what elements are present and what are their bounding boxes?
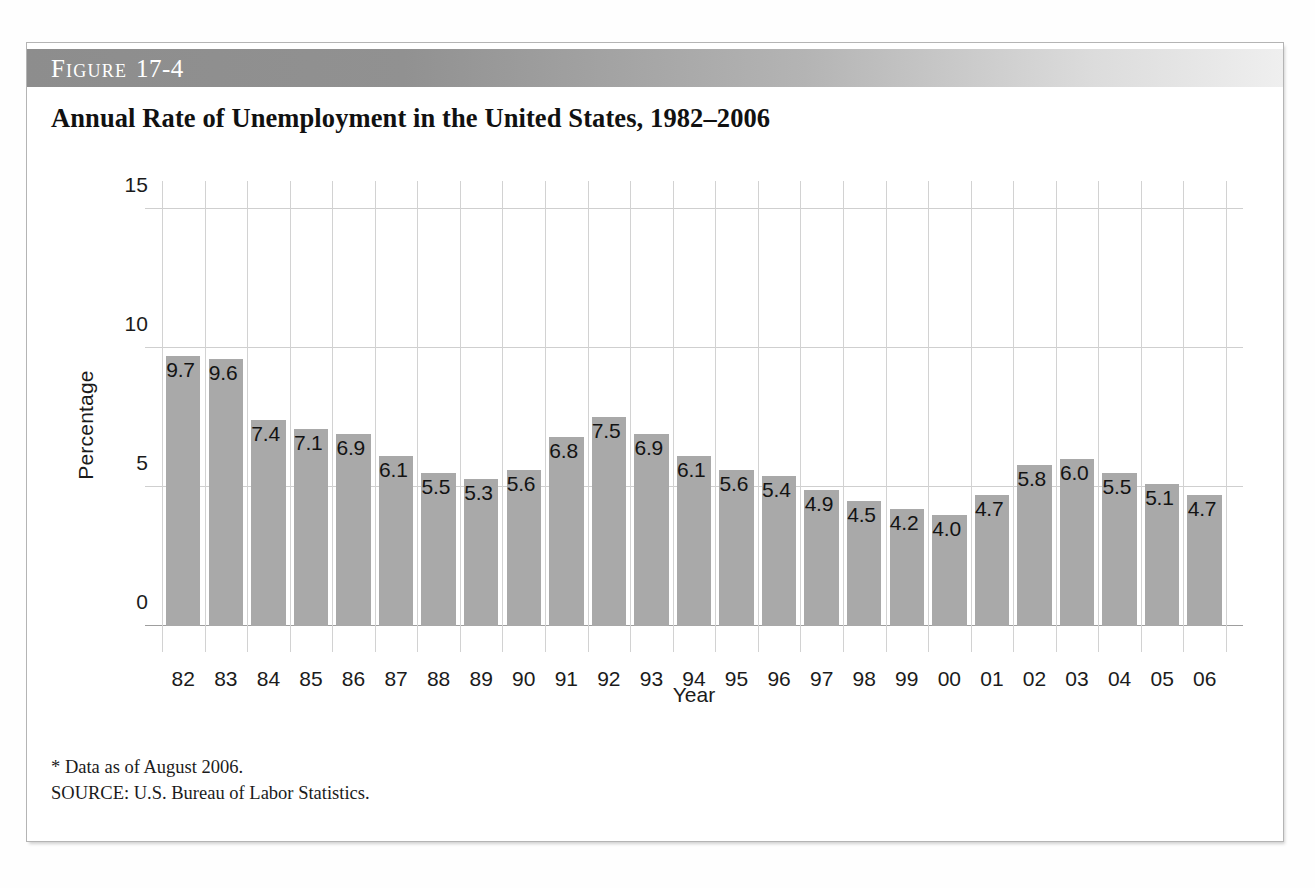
bar-value-label: 4.5 xyxy=(847,503,876,527)
bar-value-label: 5.5 xyxy=(422,475,451,499)
plot-area: 9.79.67.47.16.96.15.55.35.66.87.56.96.15… xyxy=(162,181,1226,626)
bar-value-label: 6.9 xyxy=(336,436,365,460)
bar-slot: 9.7 xyxy=(162,181,205,626)
bar-value-label: 5.6 xyxy=(507,472,536,496)
bar-slot: 7.4 xyxy=(247,181,290,626)
bar-slot: 4.9 xyxy=(800,181,843,626)
bar-slot: 5.6 xyxy=(502,181,545,626)
bar-value-label: 6.9 xyxy=(634,436,663,460)
bar-value-label: 6.1 xyxy=(677,458,706,482)
bar-value-label: 9.6 xyxy=(209,361,238,385)
bar-value-label: 6.0 xyxy=(1060,461,1089,485)
bar-slot: 6.0 xyxy=(1056,181,1099,626)
bar-value-label: 7.5 xyxy=(592,419,621,443)
figure-banner-word: Figure xyxy=(51,55,127,82)
bar-value-label: 4.7 xyxy=(975,497,1004,521)
bar[interactable] xyxy=(294,429,328,626)
bar-slot: 5.6 xyxy=(715,181,758,626)
bar[interactable] xyxy=(209,359,243,626)
bar-slot: 6.1 xyxy=(673,181,716,626)
bar[interactable] xyxy=(549,437,583,626)
figure-frame: Figure17-4 Annual Rate of Unemployment i… xyxy=(26,42,1284,842)
bar[interactable] xyxy=(634,434,668,626)
figure-page: Figure17-4 Annual Rate of Unemployment i… xyxy=(0,0,1315,888)
bar-value-label: 4.0 xyxy=(932,517,961,541)
bar[interactable] xyxy=(336,434,370,626)
bar-slot: 5.5 xyxy=(1098,181,1141,626)
figure-title: Annual Rate of Unemployment in the Unite… xyxy=(51,103,770,134)
bar-value-label: 5.4 xyxy=(762,478,791,502)
bar-slot: 4.0 xyxy=(928,181,971,626)
bar-value-label: 6.1 xyxy=(379,458,408,482)
y-tick-label-15: 15 xyxy=(125,173,148,197)
bar-value-label: 4.7 xyxy=(1188,497,1217,521)
bar[interactable] xyxy=(166,356,200,626)
bar-slot: 7.5 xyxy=(588,181,631,626)
bar-value-label: 9.7 xyxy=(166,358,195,382)
bar-slot: 9.6 xyxy=(205,181,248,626)
bar-value-label: 6.8 xyxy=(549,439,578,463)
bar-value-label: 5.8 xyxy=(1017,467,1046,491)
bar-series: 9.79.67.47.16.96.15.55.35.66.87.56.96.15… xyxy=(162,181,1226,626)
bar-value-label: 5.1 xyxy=(1145,486,1174,510)
bar-slot: 4.7 xyxy=(1183,181,1226,626)
bar-value-label: 5.3 xyxy=(464,481,493,505)
bar-slot: 6.1 xyxy=(375,181,418,626)
bar[interactable] xyxy=(251,420,285,626)
bar-value-label: 7.4 xyxy=(251,422,280,446)
bar-value-label: 5.6 xyxy=(720,472,749,496)
bar-slot: 4.2 xyxy=(886,181,929,626)
gridline-x-25 xyxy=(1226,181,1227,652)
y-tick-label-5: 5 xyxy=(136,451,148,475)
figure-banner-number: 17-4 xyxy=(136,55,183,82)
bar-value-label: 4.2 xyxy=(890,511,919,535)
footnote-data-note: * Data as of August 2006. xyxy=(51,755,370,781)
bar-slot: 6.8 xyxy=(545,181,588,626)
bar-slot: 4.5 xyxy=(843,181,886,626)
bar[interactable] xyxy=(592,417,626,626)
bar-slot: 5.8 xyxy=(1013,181,1056,626)
y-tick-label-10: 10 xyxy=(125,312,148,336)
bar-slot: 5.3 xyxy=(460,181,503,626)
bar-value-label: 7.1 xyxy=(294,431,323,455)
figure-banner: Figure17-4 xyxy=(27,49,1283,87)
bar-slot: 5.1 xyxy=(1141,181,1184,626)
bar-slot: 4.7 xyxy=(971,181,1014,626)
chart-block: Percentage 9.79.67.47.16.96.15.55.35.66.… xyxy=(27,153,1283,753)
bar-slot: 5.5 xyxy=(417,181,460,626)
bar-slot: 7.1 xyxy=(290,181,333,626)
y-axis-title: Percentage xyxy=(74,345,98,505)
bar-slot: 6.9 xyxy=(332,181,375,626)
bar-value-label: 4.9 xyxy=(805,492,834,516)
bar-value-label: 5.5 xyxy=(1103,475,1132,499)
footnote-source: SOURCE: U.S. Bureau of Labor Statistics. xyxy=(51,781,370,807)
x-axis-title: Year xyxy=(162,683,1226,707)
figure-footnotes: * Data as of August 2006. SOURCE: U.S. B… xyxy=(51,755,370,806)
bar-slot: 5.4 xyxy=(758,181,801,626)
figure-banner-label: Figure17-4 xyxy=(51,55,184,83)
y-tick-label-0: 0 xyxy=(136,590,148,614)
bar-slot: 6.9 xyxy=(630,181,673,626)
